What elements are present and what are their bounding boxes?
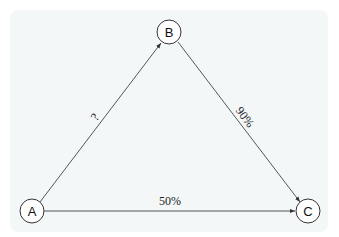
edge-a-to-c-label: 50% bbox=[159, 194, 181, 208]
node-a: A bbox=[20, 199, 44, 223]
node-c-label: C bbox=[303, 204, 312, 219]
node-b: B bbox=[157, 20, 181, 44]
edge-b-to-c-label: 90% bbox=[233, 104, 257, 130]
edge-a-to-c: 50% bbox=[44, 194, 295, 211]
node-a-label: A bbox=[28, 204, 37, 219]
probability-diagram: ? 90% 50% B A C bbox=[0, 0, 339, 237]
node-b-label: B bbox=[165, 25, 174, 40]
node-c: C bbox=[296, 199, 320, 223]
edge-b-to-c-line bbox=[178, 42, 300, 202]
edge-a-to-b: ? bbox=[40, 43, 161, 202]
edge-a-to-b-line bbox=[40, 43, 161, 202]
edge-b-to-c: 90% bbox=[178, 42, 300, 202]
edge-a-to-b-label: ? bbox=[88, 111, 102, 124]
